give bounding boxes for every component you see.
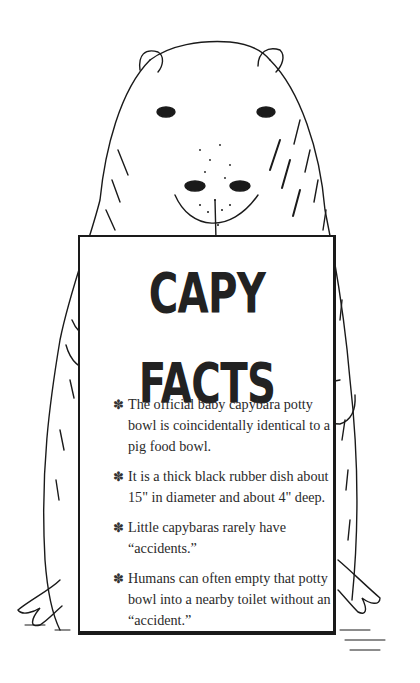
fact-text: The official baby capybara potty bowl is…: [128, 396, 330, 454]
flower-bullet-icon: ✽: [113, 394, 124, 415]
flower-bullet-icon: ✽: [113, 517, 124, 538]
fact-item: ✽ Humans can often empty that potty bowl…: [113, 568, 337, 631]
flower-bullet-icon: ✽: [113, 568, 124, 589]
flower-bullet-icon: ✽: [113, 466, 124, 487]
fact-text: Little capybaras rarely have “accidents.…: [128, 519, 286, 556]
facts-list: ✽ The official baby capybara potty bowl …: [113, 394, 337, 640]
fact-item: ✽ The official baby capybara potty bowl …: [113, 394, 337, 457]
fact-item: ✽ Little capybaras rarely have “accident…: [113, 517, 337, 559]
fact-item: ✽ It is a thick black rubber dish about …: [113, 466, 337, 508]
fact-text: Humans can often empty that potty bowl i…: [128, 570, 331, 628]
fact-text: It is a thick black rubber dish about 15…: [128, 468, 329, 505]
